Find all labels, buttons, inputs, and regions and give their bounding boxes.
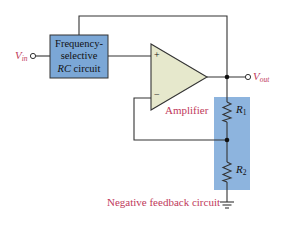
rc-block-label: Frequency- selective RC circuit <box>50 35 108 78</box>
minus-sign: − <box>154 89 160 100</box>
vout-label: Vout <box>253 70 269 84</box>
r1-label: R1 <box>236 103 246 117</box>
junction-dot-feedback <box>225 138 230 143</box>
rc-line2: selective <box>61 50 98 63</box>
feedback-circuit-label: Negative feedback circuit <box>107 196 220 208</box>
r2-label: R2 <box>236 163 246 177</box>
amplifier-label: Amplifier <box>165 104 208 116</box>
rc-line1: Frequency- <box>55 38 103 51</box>
vin-label: Vin <box>15 49 28 63</box>
rc-line3: RC circuit <box>58 63 101 76</box>
plus-sign: + <box>154 49 160 60</box>
junction-dot-output <box>225 75 230 80</box>
input-terminal-icon <box>30 53 35 58</box>
output-terminal-icon <box>245 74 250 79</box>
